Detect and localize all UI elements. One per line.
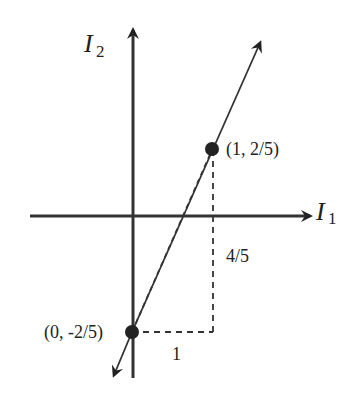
x-axis-label: I	[315, 197, 326, 226]
diagram-canvas: (1, 2/5) (0, -2/5) 1 4/5 I 2 I 1	[0, 0, 355, 402]
x-axis-subscript: 1	[328, 209, 337, 228]
y-axis-subscript: 2	[96, 42, 105, 61]
rise-label: 4/5	[226, 246, 249, 266]
point-upper	[205, 142, 219, 156]
run-label: 1	[172, 344, 181, 364]
point-upper-label: (1, 2/5)	[226, 139, 279, 160]
solution-line	[132, 43, 260, 332]
point-lower-label: (0, -2/5)	[44, 322, 103, 343]
y-axis-label: I	[83, 29, 94, 58]
point-lower	[125, 325, 139, 339]
